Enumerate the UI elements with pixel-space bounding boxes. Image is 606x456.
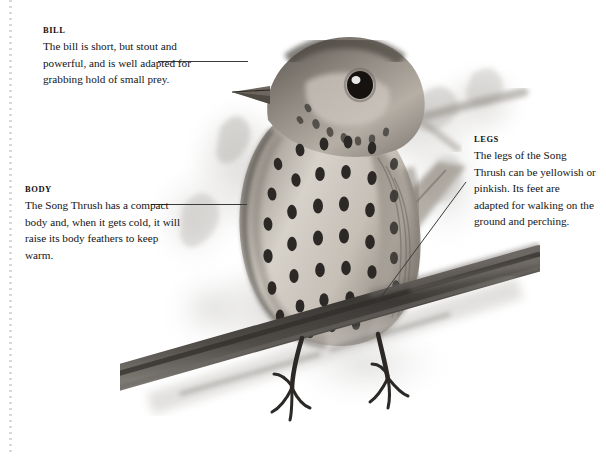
annotation-bill-text: The bill is short, but stout and powerfu… [43, 38, 198, 87]
annotation-legs-heading: LEGS [474, 135, 596, 144]
annotation-legs-text: The legs of the Song Thrush can be yello… [474, 147, 596, 229]
annotation-bill-heading: BILL [43, 26, 198, 35]
annotation-body: BODY The Song Thrush has a compact body … [25, 185, 185, 263]
leader-line-legs [368, 180, 468, 314]
annotation-legs: LEGS The legs of the Song Thrush can be … [474, 135, 596, 229]
annotation-body-text: The Song Thrush has a compact body and, … [25, 197, 185, 263]
annotation-body-heading: BODY [25, 185, 185, 194]
illustration-page: BILL The bill is short, but stout and po… [0, 0, 606, 456]
dotted-margin-rule [9, 0, 12, 456]
annotation-bill: BILL The bill is short, but stout and po… [43, 26, 198, 88]
